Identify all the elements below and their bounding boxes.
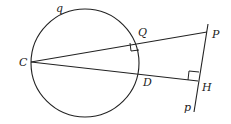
line-p [194,24,208,112]
label-q: q [56,2,63,15]
circle-q [31,9,139,117]
segment-CH [31,62,198,81]
right-angle-H [188,71,199,80]
label-C: C [19,56,28,69]
label-Q: Q [138,26,147,39]
label-H: H [201,81,212,94]
geometry-diagram: q C Q P D H p [0,0,231,124]
label-p: p [184,101,191,114]
label-P: P [211,28,220,41]
label-D: D [142,76,152,89]
segment-CP [31,32,207,62]
